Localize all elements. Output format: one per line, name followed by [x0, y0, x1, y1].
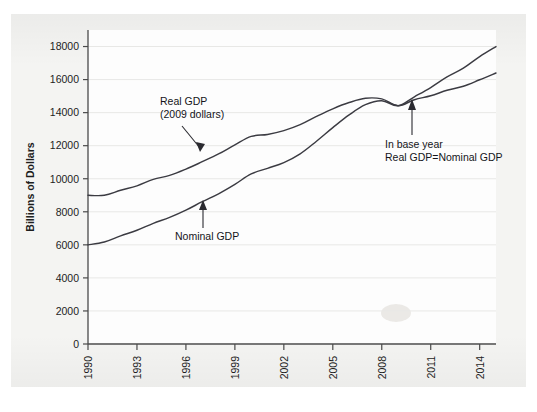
- y-tick-label: 8000: [56, 206, 80, 218]
- figure-page: 0200040006000800010000120001400016000180…: [0, 0, 537, 412]
- y-tick-label: 10000: [50, 173, 79, 185]
- real-gdp-line: [88, 73, 496, 196]
- x-tick-label: 1996: [180, 356, 192, 380]
- y-axis-title: Billions of Dollars: [24, 142, 36, 231]
- nominal-gdp-arrowhead-icon: [199, 200, 207, 210]
- y-axis-tick-labels: 0200040006000800010000120001400016000180…: [50, 40, 79, 349]
- y-tick-label: 18000: [50, 40, 79, 52]
- base-year-annotation-line-1: In base year: [385, 138, 443, 150]
- y-tick-label: 4000: [56, 272, 80, 284]
- y-axis-ticks: [83, 47, 88, 344]
- y-tick-label: 2000: [56, 305, 80, 317]
- x-axis-ticks: [88, 344, 480, 350]
- scan-smudge: [381, 304, 411, 322]
- nominal-gdp-annotation: Nominal GDP: [175, 200, 239, 242]
- y-tick-label: 0: [73, 338, 79, 350]
- x-tick-label: 2014: [474, 356, 486, 380]
- base-year-annotation-line-2: Real GDP=Nominal GDP: [385, 151, 503, 163]
- x-axis-tick-labels: 199019931996199920022005200820112014: [82, 356, 486, 380]
- base-year-annotation: In base year Real GDP=Nominal GDP: [385, 99, 503, 163]
- x-tick-label: 1999: [229, 356, 241, 380]
- x-tick-label: 2002: [278, 356, 290, 380]
- real-gdp-annotation-line-2: (2009 dollars): [160, 108, 224, 120]
- x-tick-label: 2008: [376, 356, 388, 380]
- y-tick-label: 16000: [50, 73, 79, 85]
- x-tick-label: 1990: [82, 356, 94, 380]
- x-tick-label: 2011: [425, 356, 437, 379]
- real-gdp-annotation: Real GDP (2009 dollars): [160, 95, 224, 152]
- gridlines: [88, 47, 496, 311]
- y-tick-label: 6000: [56, 239, 80, 251]
- real-gdp-arrowhead-icon: [196, 142, 205, 152]
- real-gdp-annotation-line-1: Real GDP: [160, 95, 207, 107]
- x-tick-label: 2005: [327, 356, 339, 380]
- gdp-line-chart: 0200040006000800010000120001400016000180…: [0, 0, 537, 412]
- y-tick-label: 12000: [50, 139, 79, 151]
- x-tick-label: 1993: [131, 356, 143, 380]
- y-tick-label: 14000: [50, 106, 79, 118]
- nominal-gdp-annotation-line-1: Nominal GDP: [175, 230, 239, 242]
